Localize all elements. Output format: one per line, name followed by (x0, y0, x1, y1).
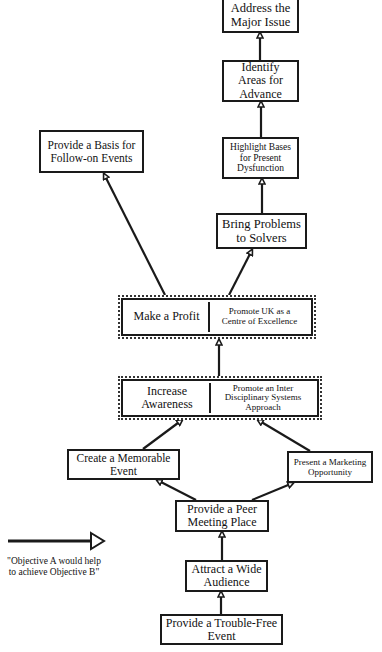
node-label: Advance (238, 88, 283, 101)
node-label: Dysfunction (230, 163, 291, 174)
node-make-profit: Make a Profit (125, 302, 210, 332)
legend-arrow-icon (8, 533, 104, 549)
node-increase-awareness: Increase Awareness (125, 383, 211, 413)
edge-memorable-awareness (143, 420, 182, 449)
edge-promoteuk-bring (229, 250, 252, 295)
legend-caption: "Objective A would help to achieve Objec… (0, 556, 108, 577)
node-attract-audience: Attract a Wide Audience (185, 560, 268, 592)
node-label: Major Issue (231, 15, 290, 29)
node-identify-areas: Identify Areas for Advance (222, 60, 299, 102)
edge-profit-basis (104, 174, 165, 295)
node-marketing-opportunity: Present a Marketing Opportunity (287, 451, 373, 483)
node-label: for Present (230, 153, 291, 164)
node-promote-uk: Promote UK as a Centre of Excellence (210, 302, 309, 332)
edge-peer-memorable (157, 480, 196, 500)
node-label: Event (166, 630, 277, 643)
node-label: Audience (192, 576, 262, 589)
node-label: Address the (231, 1, 290, 15)
node-trouble-free-event: Provide a Trouble-Free Event (160, 614, 283, 645)
edge-marketing-promoteinter (258, 420, 310, 451)
node-label: Highlight Bases (230, 142, 291, 153)
node-label: Meeting Place (187, 516, 257, 529)
node-label: Present a Marketing (294, 457, 366, 467)
node-label: Provide a Trouble-Free (166, 617, 277, 630)
node-bring-problems: Bring Problems to Solvers (216, 213, 307, 249)
node-label: Bring Problems (222, 217, 301, 231)
node-label: Areas for (238, 74, 283, 87)
legend-line-1: "Objective A would help (0, 556, 108, 567)
node-highlight-bases: Highlight Bases for Present Dysfunction (222, 137, 299, 179)
node-label: Identify (238, 61, 283, 74)
node-label: Create a Memorable (77, 452, 171, 464)
node-label: Event (77, 465, 171, 477)
combined-node-awareness-promote-inter: Increase Awareness Promote an Inter Disc… (118, 376, 322, 420)
node-address-major-issue: Address the Major Issue (222, 0, 299, 33)
node-label: Approach (225, 403, 302, 412)
node-label: Provide a Basis for (48, 139, 136, 152)
node-label: Opportunity (294, 467, 366, 477)
node-label: Awareness (141, 398, 193, 411)
node-label: Follow-on Events (48, 152, 136, 165)
node-promote-inter: Promote an Inter Disciplinary Systems Ap… (211, 383, 315, 413)
node-label: to Solvers (222, 231, 301, 245)
edge-peer-marketing (252, 483, 293, 500)
combined-node-profit-promote-uk: Make a Profit Promote UK as a Centre of … (118, 295, 316, 339)
node-label: Centre of Excellence (222, 317, 297, 327)
node-basis-follow-on: Provide a Basis for Follow-on Events (39, 130, 144, 173)
node-memorable-event: Create a Memorable Event (67, 449, 180, 480)
node-label: Make a Profit (134, 310, 200, 323)
legend-line-2: to achieve Objective B" (0, 567, 108, 578)
node-peer-meeting-place: Provide a Peer Meeting Place (175, 500, 269, 532)
